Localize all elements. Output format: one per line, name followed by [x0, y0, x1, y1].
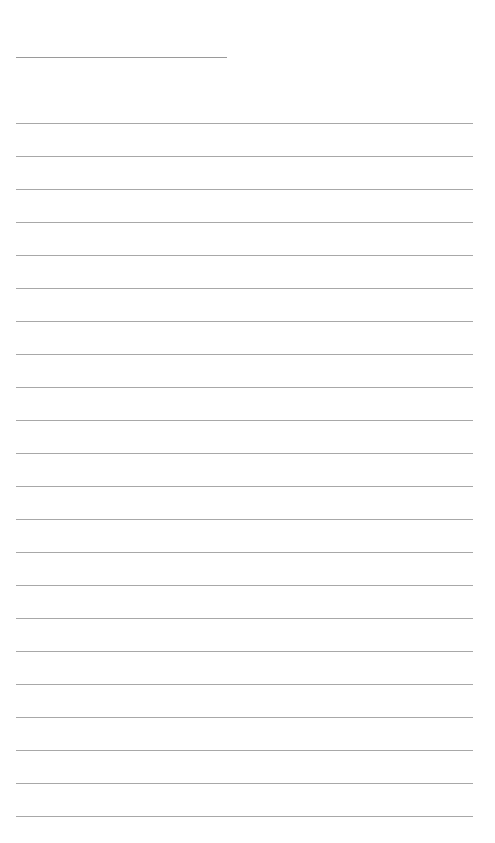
ruled-line [16, 519, 473, 520]
ruled-line [16, 651, 473, 652]
ruled-line [16, 453, 473, 454]
ruled-line [16, 684, 473, 685]
ruled-line [16, 816, 473, 817]
ruled-line [16, 255, 473, 256]
ruled-line [16, 387, 473, 388]
ruled-line [16, 750, 473, 751]
ruled-line [16, 552, 473, 553]
title-line [16, 57, 227, 58]
ruled-line [16, 717, 473, 718]
ruled-line [16, 585, 473, 586]
ruled-line [16, 189, 473, 190]
ruled-line [16, 288, 473, 289]
ruled-line [16, 618, 473, 619]
ruled-line [16, 783, 473, 784]
ruled-line [16, 354, 473, 355]
ruled-line [16, 123, 473, 124]
ruled-line [16, 156, 473, 157]
ruled-line [16, 420, 473, 421]
ruled-line [16, 321, 473, 322]
ruled-line [16, 222, 473, 223]
ruled-line [16, 486, 473, 487]
